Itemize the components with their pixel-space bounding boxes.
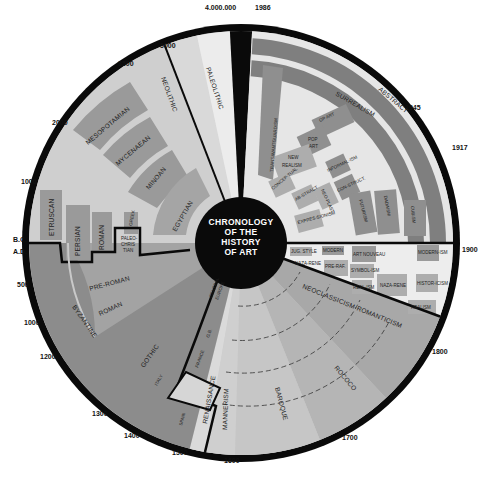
label-artnouveau: ART NOUVEAU	[353, 252, 385, 257]
label-realism-new: REALISM	[282, 163, 302, 168]
tick-1500: 1500	[172, 449, 188, 456]
label-paleo-2: CHRIS	[121, 242, 135, 247]
title-line-4: OF ART	[191, 247, 291, 257]
label-persian: PERSIAN	[74, 226, 81, 256]
tick-1900: 1900	[462, 246, 478, 253]
title-line-1: CHRONOLOGY	[191, 217, 291, 227]
label-prerafael: PRE-RAF.	[325, 264, 346, 269]
tick-1700: 1700	[342, 434, 358, 441]
label-realism-2: REALISM	[411, 305, 431, 310]
label-nazarene-1: NAZA-RENE	[295, 261, 321, 266]
tick-1800: 1800	[432, 348, 448, 355]
tick-1000-bc: 1000	[21, 178, 37, 185]
tick-4000000: 4.000.000	[205, 4, 236, 11]
tick-1986: 1986	[255, 4, 271, 11]
label-realism-1: REAL-ISM	[353, 285, 375, 290]
label-etruscan: ETRUSCAN	[48, 199, 55, 236]
tick-1000-ad: 1000	[24, 319, 40, 326]
label-paleo-3: TIAN	[123, 248, 133, 253]
tick-bc: B.C.	[13, 236, 27, 243]
label-nazarene-2: NAZA-RENE	[380, 283, 406, 288]
title-line-3: HISTORY	[191, 237, 291, 247]
label-symbolism: SYMBOL-ISM	[351, 268, 380, 273]
label-historicism: HISTOR-ICISM	[417, 281, 448, 286]
label-modernism-2: MODERN-ISM	[418, 250, 448, 255]
label-new: NEW	[288, 155, 299, 160]
tick-1200: 1200	[40, 353, 56, 360]
chronology-wheel: 4.000.000 1986 1945 1917 1900 1800 1700 …	[0, 0, 482, 490]
tick-3500: 3500	[118, 60, 134, 67]
label-pop: POP	[308, 137, 318, 142]
tick-ad: A.D.	[13, 248, 27, 255]
tick-2000: 2000	[52, 119, 68, 126]
label-modern-1: MODERN	[323, 248, 343, 253]
tick-1300: 1300	[92, 410, 108, 417]
tick-500: 500	[17, 281, 29, 288]
label-roman-ancient: ROMAN	[98, 225, 105, 250]
tick-5000: 5000	[160, 42, 176, 49]
label-paleo-1: PALEO-	[121, 236, 138, 241]
label-art: ART	[309, 144, 318, 149]
tick-1917: 1917	[452, 144, 468, 151]
label-jugend: JUG. STYLE	[291, 249, 317, 254]
tick-1600: 1600	[224, 457, 240, 464]
center-title: CHRONOLOGY OF THE HISTORY OF ART	[191, 217, 291, 257]
label-mannerism: MANNERISM	[221, 388, 229, 430]
tick-1400: 1400	[124, 432, 140, 439]
title-line-2: OF THE	[191, 227, 291, 237]
